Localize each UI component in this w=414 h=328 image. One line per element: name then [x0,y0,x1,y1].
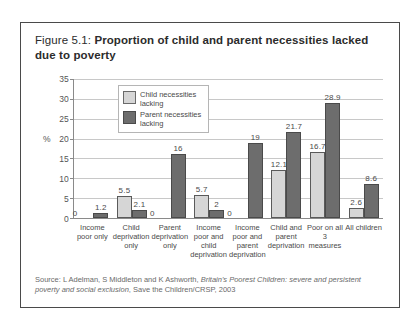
legend-item[interactable]: Child necessities lacking [123,90,202,108]
bar[interactable] [349,208,364,218]
bar[interactable] [248,143,263,218]
y-axis-tick-label: 15 [49,154,69,164]
bar[interactable] [117,196,132,218]
bar-value-label: 0 [227,209,232,218]
bar-value-label: 5.7 [196,185,208,194]
y-axis-tick-label: 20 [49,134,69,144]
x-axis-labels: Income poor onlyChild deprivation onlyPa… [73,221,383,261]
bar-value-label: 16 [173,144,182,153]
bar-value-label: 5.5 [119,186,131,195]
x-axis-category-label: Parent deprivation only [151,221,190,261]
x-axis-category-label: All children [344,221,383,261]
bar-slot: 1.2 [93,79,108,218]
y-axis-tick [70,218,74,219]
bar-value-label: 12.1 [271,160,287,169]
figure-number: Figure 5.1: [35,34,91,46]
x-axis-category-label: Income poor and child deprivation [189,221,228,261]
bar[interactable] [132,210,147,218]
figure-title: Figure 5.1: Proportion of child and pare… [35,33,383,63]
y-axis-tick-label: 0 [49,214,69,224]
bar[interactable] [286,132,301,218]
bar-slot: 19 [248,79,263,218]
y-axis-tick-label: 5 [49,194,69,204]
bar-slot: 12.1 [271,79,286,218]
bar[interactable] [93,213,108,218]
chart-legend: Child necessities lackingParent necessit… [118,85,209,133]
bar-value-label: 19 [251,133,260,142]
bar-value-label: 8.6 [365,174,377,183]
bar-value-label: 16.7 [309,142,325,151]
bar-slot: 28.9 [325,79,340,218]
bar[interactable] [194,195,209,218]
figure-panel: Figure 5.1: Proportion of child and pare… [20,22,400,308]
bar-value-label: 2.6 [350,198,362,207]
x-axis-category-label: Income poor only [73,221,112,261]
bar-slot: 0 [233,79,248,218]
chart: 05101520%253035 01.25.52.10165.7201912.1… [35,71,387,261]
bar[interactable] [325,103,340,218]
bar-slot: 2 [209,79,224,218]
bar-value-label: 28.9 [324,93,340,102]
bar[interactable] [171,154,186,218]
source-suffix: , Save the Children/CRSP, 2003 [129,285,236,294]
bar[interactable] [364,184,379,218]
bar-value-label: 2 [214,200,219,209]
x-axis-category-label: Poor on all 3 measures [306,221,345,261]
bar-slot: 0 [78,79,93,218]
y-axis-tick-label: 25 [49,114,69,124]
bar[interactable] [310,152,325,218]
source-prefix: Source: L Adelman, S Middleton and K Ash… [35,275,201,284]
x-axis-category-label: Child deprivation only [112,221,151,261]
x-axis-category-label: Child and parent deprivation [267,221,306,261]
bar-value-label: 0 [150,209,155,218]
source-note: Source: L Adelman, S Middleton and K Ash… [35,275,387,295]
bar-slot: 2.6 [349,79,364,218]
bar-value-label: 0 [73,209,78,218]
bar[interactable] [209,210,224,218]
y-axis-labels: 05101520%253035 [43,79,69,219]
bar-value-label: 1.2 [95,203,107,212]
y-axis-tick-label: 35 [49,74,69,84]
bar-group: 01.2 [74,79,113,218]
y-axis-tick-label: 30 [49,94,69,104]
x-axis-category-label: Income poor and parent deprivation [228,221,267,261]
y-axis-unit-label: % [43,134,51,144]
legend-item[interactable]: Parent necessities lacking [123,110,202,128]
bar[interactable] [271,170,286,218]
bar-group: 16.728.9 [306,79,345,218]
bar-slot: 16.7 [310,79,325,218]
y-axis-tick-label: 10 [49,174,69,184]
bar-value-label: 21.7 [286,122,302,131]
plot-area: 01.25.52.10165.7201912.121.716.728.92.68… [73,79,383,219]
bar-value-label: 2.1 [134,200,146,209]
bar-slot: 8.6 [364,79,379,218]
legend-label: Parent necessities lacking [140,110,202,128]
bar-group: 019 [229,79,268,218]
bar-slot: 21.7 [286,79,301,218]
legend-label: Child necessities lacking [140,90,202,108]
legend-swatch-parent [123,111,136,124]
bar-group: 12.121.7 [267,79,306,218]
legend-swatch-child [123,91,136,104]
bar-group: 2.68.6 [344,79,383,218]
